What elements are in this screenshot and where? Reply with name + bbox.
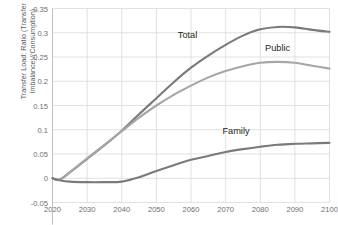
- series-label-family: Family: [222, 126, 249, 136]
- series-label-total: Total: [178, 30, 197, 40]
- series-label-public: Public: [265, 43, 290, 53]
